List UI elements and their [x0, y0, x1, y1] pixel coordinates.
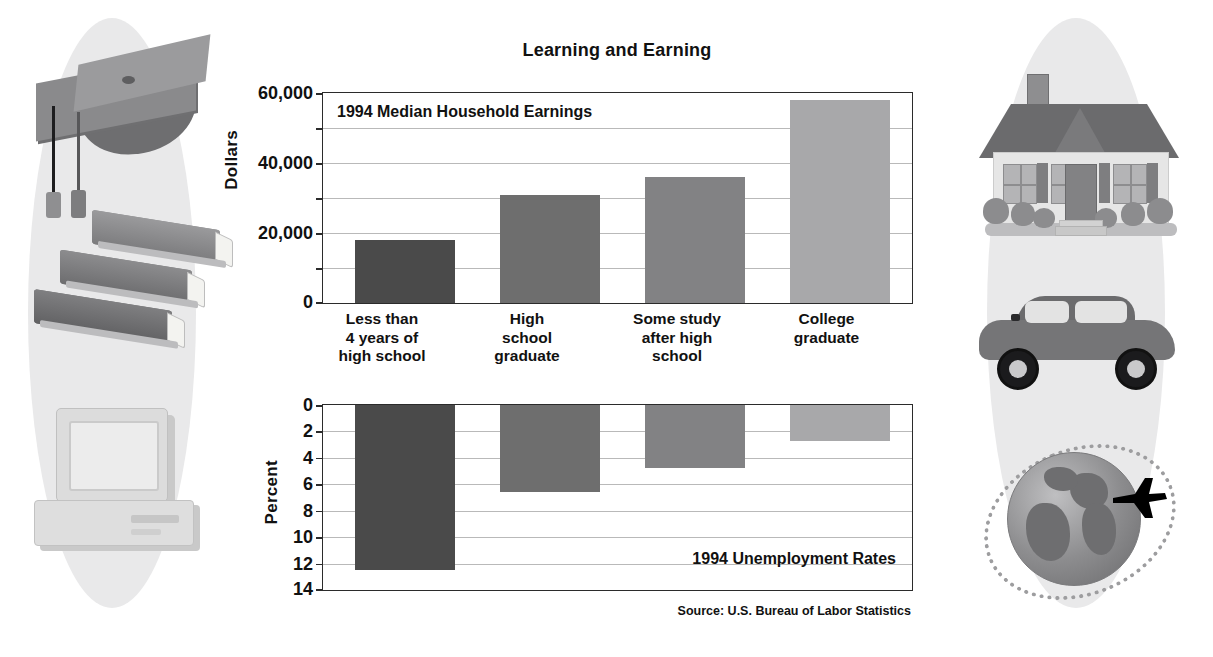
- ytick-label-2: 2: [303, 421, 313, 442]
- ytick-label-10: 10: [293, 527, 313, 548]
- tick-60000: [316, 93, 323, 95]
- unemployment-plot-area: 0 2 4 6 8 10 12 14 1994 Unemployment Rat…: [322, 404, 913, 591]
- page-title: Learning and Earning: [322, 40, 912, 61]
- book-top: [92, 210, 220, 264]
- shutter-far-right: [1147, 163, 1158, 203]
- earnings-bar-high-school-graduate: [500, 195, 600, 304]
- bush-1: [983, 198, 1009, 224]
- tassel-knob-2: [71, 190, 86, 218]
- landmass-north: [1044, 467, 1078, 491]
- drive-slot-2: [131, 529, 161, 535]
- tick-8: [316, 511, 323, 513]
- category-label-less-than-high-school: Less than 4 years of high school: [322, 310, 442, 366]
- wheel-hub: [1009, 360, 1027, 378]
- axis-label-dollars: Dollars: [222, 130, 242, 190]
- window-mullion-h: [1114, 184, 1146, 186]
- desktop-computer-icon: [28, 400, 208, 550]
- house-icon: [975, 60, 1190, 260]
- drive-slot: [131, 515, 179, 523]
- unemployment-panel-caption: 1994 Unemployment Rates: [692, 550, 896, 568]
- wheel-hub: [1127, 360, 1145, 378]
- category-label-high-school-graduate: High school graduate: [467, 310, 587, 366]
- axis-label-percent: Percent: [262, 460, 282, 524]
- right-illustration-panel: [955, 0, 1213, 657]
- tick-4: [316, 458, 323, 460]
- tick-0: [316, 302, 323, 304]
- computer-base: [34, 500, 194, 546]
- bush-5: [1121, 202, 1145, 226]
- ytick-label-8: 8: [303, 500, 313, 521]
- tick-50000: [316, 128, 323, 130]
- car-wheel-front: [997, 348, 1039, 390]
- ytick-label-0: 0: [303, 395, 313, 416]
- graduation-cap-icon: [30, 40, 220, 200]
- front-step-lower: [1055, 226, 1107, 236]
- unemployment-bar-less-than-high-school: [355, 405, 455, 570]
- shutter-left: [1037, 163, 1048, 203]
- earnings-bar-some-study-after-high-school: [645, 177, 745, 303]
- unemployment-bar-some-study-after-high-school: [645, 405, 745, 468]
- car-window-rear: [1075, 301, 1127, 323]
- tick-10: [316, 537, 323, 539]
- ytick-label-0: 0: [303, 292, 313, 313]
- ytick-label-4: 4: [303, 447, 313, 468]
- tassel-knob: [46, 192, 61, 218]
- cap-button: [122, 76, 135, 84]
- tick-6: [316, 484, 323, 486]
- unemployment-bar-college-graduate: [790, 405, 890, 441]
- tick-12: [316, 564, 323, 566]
- car-window-front: [1025, 301, 1069, 323]
- ytick-label-6: 6: [303, 474, 313, 495]
- tick-14: [316, 589, 323, 591]
- category-label-college-graduate: College graduate: [764, 310, 889, 347]
- shutter-right: [1099, 163, 1110, 203]
- ytick-label-14: 14: [293, 579, 313, 600]
- tick-2: [316, 431, 323, 433]
- tassel-cord: [52, 106, 55, 198]
- stacked-books-icon: [20, 218, 220, 368]
- unemployment-bar-high-school-graduate: [500, 405, 600, 492]
- earnings-panel-caption: 1994 Median Household Earnings: [337, 103, 592, 121]
- tassel-cord-2: [77, 112, 80, 198]
- earnings-plot-area: 60,000 40,000 20,000 0 1994 Median House…: [322, 92, 913, 304]
- car-mirror: [1011, 314, 1020, 321]
- ytick-label-40000: 40,000: [258, 153, 313, 174]
- left-illustration-panel: [0, 0, 235, 657]
- earnings-bar-less-than-high-school: [355, 240, 455, 303]
- window-right: [1113, 164, 1147, 204]
- bush-3: [1033, 208, 1055, 228]
- globe-airplane-icon: [981, 430, 1181, 620]
- landmass-americas: [1026, 503, 1070, 561]
- monitor: [56, 408, 168, 502]
- tick-0: [316, 405, 323, 407]
- earnings-bar-college-graduate: [790, 100, 890, 303]
- bush-2: [1011, 202, 1035, 226]
- source-note: Source: U.S. Bureau of Labor Statistics: [322, 604, 913, 618]
- car-wheel-rear: [1115, 348, 1157, 390]
- window-left: [1003, 164, 1037, 204]
- front-door: [1065, 164, 1097, 224]
- tick-10000: [316, 268, 323, 270]
- tick-30000: [316, 198, 323, 200]
- bush-6: [1147, 198, 1173, 224]
- category-label-some-study-after-high-school: Some study after high school: [612, 310, 742, 366]
- monitor-screen: [69, 421, 159, 491]
- car-icon: [973, 290, 1193, 390]
- ytick-label-20000: 20,000: [258, 223, 313, 244]
- tick-40000: [316, 163, 323, 165]
- ytick-label-12: 12: [293, 553, 313, 574]
- window-mullion-h: [1004, 184, 1036, 186]
- airplane-icon: [1109, 476, 1169, 522]
- tick-20000: [316, 233, 323, 235]
- ytick-label-60000: 60,000: [258, 83, 313, 104]
